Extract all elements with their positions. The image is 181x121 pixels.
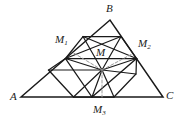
- center-label-m: M: [96, 47, 105, 58]
- midpoint-label-m2: M2: [138, 38, 151, 49]
- midpoint-label-m1-base: M: [55, 33, 64, 45]
- vertex-label-b: B: [106, 3, 113, 14]
- vertex-label-a: A: [10, 91, 17, 102]
- midpoint-label-m2-sub: 2: [147, 43, 151, 51]
- midpoint-label-m3-base: M: [93, 103, 102, 115]
- midpoint-label-m2-base: M: [138, 37, 147, 49]
- midpoint-label-m3: M3: [93, 104, 106, 115]
- midpoint-label-m3-sub: 3: [102, 109, 106, 117]
- vertex-label-c: C: [166, 90, 173, 101]
- midpoint-label-m1: M1: [55, 34, 68, 45]
- medial-triangle: [66, 59, 137, 98]
- geometry-canvas: [0, 0, 181, 121]
- geometry-figure: A B C M M1 M2 M3: [0, 0, 181, 121]
- midpoint-label-m1-sub: 1: [64, 39, 68, 47]
